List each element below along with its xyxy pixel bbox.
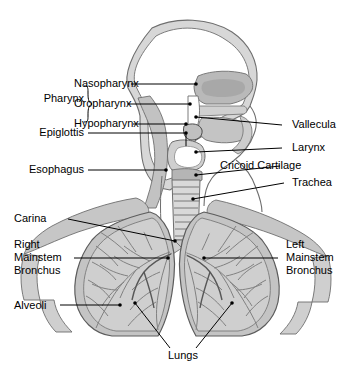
label-oropharynx: Oropharynx [74,97,131,110]
label-left-mainstem-line1: Left [286,238,304,251]
leader-trachea [193,183,284,199]
label-lungs: Lungs [153,349,213,362]
label-vallecula: Vallecula [292,118,336,131]
label-alveoli: Alveoli [14,299,46,312]
label-left-mainstem-line2: Mainstem [286,251,334,264]
label-larynx: Larynx [292,141,325,154]
nasal-cavity [194,71,253,104]
label-esophagus: Esophagus [2,163,84,176]
label-right-mainstem-line2: Mainstem [14,251,62,264]
label-left-mainstem-line3: Bronchus [286,264,332,277]
label-pharynx: Pharynx [2,92,84,105]
label-cricoid-cartilage: Cricoid Cartilage [220,159,301,172]
respiratory-anatomy-diagram: Pharynx Nasopharynx Oropharynx Hypophary… [0,0,352,375]
label-nasopharynx: Nasopharynx [74,77,139,90]
label-right-mainstem-line3: Bronchus [14,264,60,277]
label-epiglottis: Epiglottis [2,126,84,139]
oral-cavity [195,106,252,154]
label-trachea: Trachea [292,176,332,189]
label-carina: Carina [14,212,46,225]
label-right-mainstem-line1: Right [14,238,40,251]
